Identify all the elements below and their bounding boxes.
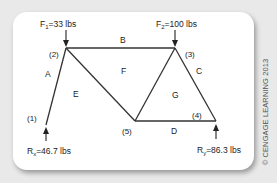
node-label-1: (1) — [27, 114, 37, 123]
node-label-4: (4) — [192, 111, 202, 120]
space-label-a: A — [45, 69, 51, 79]
node-label-2: (2) — [49, 50, 59, 59]
space-label-f: F — [121, 66, 126, 76]
space-label-c: C — [196, 66, 202, 76]
space-label-g: G — [172, 90, 179, 100]
member-1-2 — [46, 48, 66, 125]
f1-label: F1=33 lbs — [40, 19, 76, 30]
space-label-b: B — [120, 35, 126, 45]
space-label-d: D — [171, 126, 177, 136]
truss-diagram: F1=33 lbs F2=100 lbs Rx=46.7 lbs Ry=86.3… — [0, 0, 277, 183]
member-2-5 — [66, 48, 135, 121]
rx-label: Rx=46.7 lbs — [27, 146, 71, 157]
f2-label: F2=100 lbs — [156, 19, 197, 30]
node-label-3: (3) — [185, 50, 195, 59]
space-label-e: E — [73, 89, 79, 99]
copyright-notice: © CENGAGE LEARNING 2013 — [261, 59, 270, 166]
member-3-5 — [135, 48, 175, 121]
ry-label: Ry=86.3 lbs — [197, 145, 241, 156]
node-label-5: (5) — [122, 127, 132, 136]
